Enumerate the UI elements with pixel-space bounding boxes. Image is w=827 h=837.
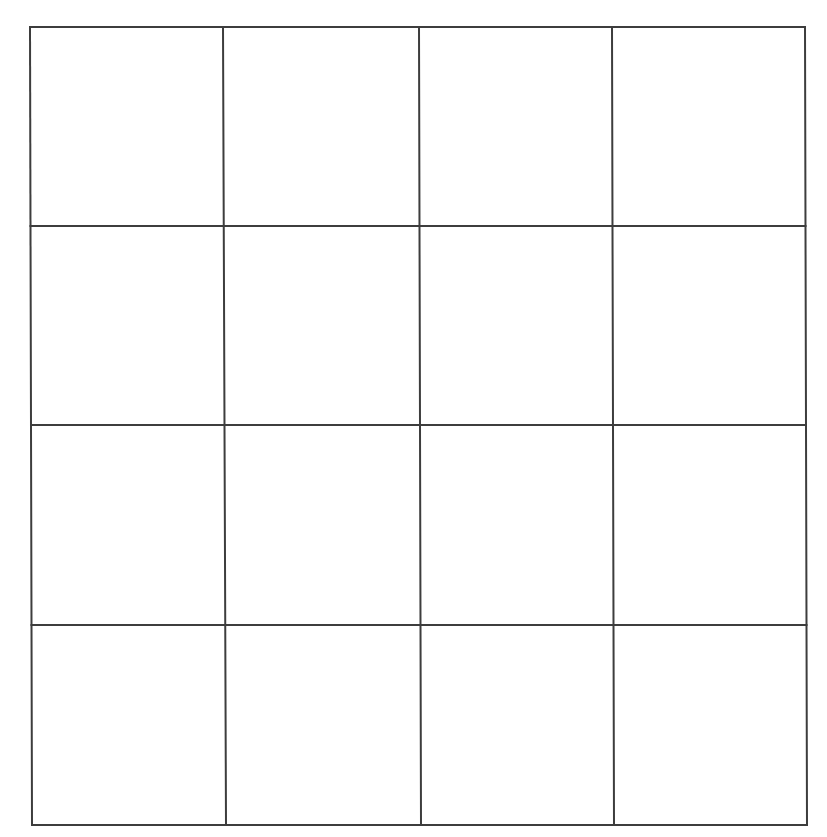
grid-cell-r2-c1 [30,226,223,425]
grid-cell-r3-c4 [613,425,806,625]
grid-cell-r1-c2 [223,27,419,226]
grid-cell-r2-c4 [612,226,805,425]
grid-cell-r4-c3 [420,625,613,825]
grid-cell-r1-c4 [612,27,805,226]
grid-cell-r1-c1 [30,27,223,226]
grid-cell-r3-c3 [420,425,613,625]
grid-cell-r3-c1 [31,425,224,625]
grid-cell-r2-c2 [224,226,420,425]
grid-cell-r4-c1 [31,625,225,825]
grid-cell-r1-c3 [419,27,612,226]
grid-cell-r4-c4 [613,625,806,825]
empty-4x4-grid [0,0,827,837]
grid-cell-r4-c2 [225,625,420,825]
grid-cell-r3-c2 [224,425,420,625]
grid-cell-r2-c3 [419,226,612,425]
